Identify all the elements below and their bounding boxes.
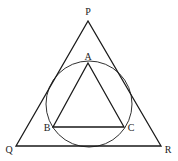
vertex-label-r: R [165,144,172,155]
vertex-label-q: Q [5,144,13,155]
inner-triangle-abc [53,63,124,127]
vertex-label-p: P [85,6,91,17]
geometry-diagram: P Q R A B C [0,0,178,161]
inscribed-circle [46,61,132,147]
vertex-label-a: A [84,51,92,62]
vertex-label-b: B [44,122,51,133]
vertex-label-c: C [128,122,135,133]
